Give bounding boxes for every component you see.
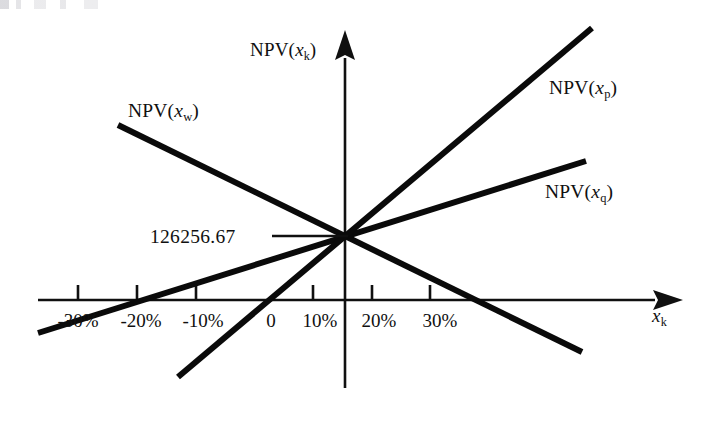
sensitivity-line-chart <box>0 0 707 424</box>
series-label-npv-xp-sub: p <box>604 87 610 101</box>
series-label-npv-xq-prefix: NPV( <box>545 181 591 202</box>
y-axis-label-sub: k <box>304 49 310 63</box>
series-label-npv-xw: NPV(xw) <box>128 101 199 121</box>
x-tick-label-pos10: 10% <box>303 311 338 330</box>
x-axis-label-sub: k <box>661 315 667 329</box>
y-axis-label-suffix: ) <box>310 39 317 60</box>
x-tick-label-neg10: -10% <box>182 311 223 330</box>
series-label-npv-xw-suffix: ) <box>192 100 199 121</box>
series-label-npv-xq: NPV(xq) <box>545 182 613 202</box>
intersection-value-annotation: 126256.67 <box>150 226 236 248</box>
series-label-npv-xw-var: x <box>174 100 183 121</box>
x-axis-ticks <box>78 285 430 300</box>
series-label-npv-xp: NPV(xp) <box>549 78 617 98</box>
series-label-npv-xw-sub: w <box>183 110 192 124</box>
chart-canvas: NPV(xk) xk NPV(xw) NPV(xp) NPV(xq) 12625… <box>0 0 707 424</box>
series-label-npv-xp-prefix: NPV( <box>549 77 595 98</box>
y-axis-label: NPV(xk) <box>250 40 316 59</box>
x-tick-label-neg30: -30% <box>57 311 98 330</box>
series-label-npv-xp-var: x <box>595 77 604 98</box>
y-axis-label-prefix: NPV( <box>250 39 295 60</box>
x-tick-label-zero: 0 <box>266 311 276 330</box>
series-label-npv-xw-prefix: NPV( <box>128 100 174 121</box>
x-tick-label-pos20: 20% <box>362 311 397 330</box>
y-axis-arrowhead <box>335 30 355 60</box>
series-label-npv-xq-suffix: ) <box>606 181 613 202</box>
series-label-npv-xq-var: x <box>591 181 600 202</box>
series-label-npv-xp-suffix: ) <box>610 77 617 98</box>
y-axis-label-var: x <box>295 39 304 60</box>
x-axis-label-var: x <box>652 305 661 326</box>
series-label-npv-xq-sub: q <box>600 191 606 205</box>
series-line-npv-xq <box>38 161 586 333</box>
x-tick-label-neg20: -20% <box>120 311 161 330</box>
x-axis-label: xk <box>652 306 667 325</box>
x-tick-label-pos30: 30% <box>423 311 458 330</box>
